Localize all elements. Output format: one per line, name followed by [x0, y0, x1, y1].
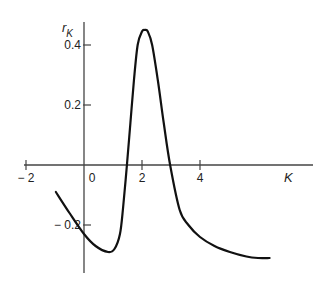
y-tick-label: 0.2: [64, 98, 81, 112]
x-tick-label: 0: [89, 171, 96, 185]
y-axis-label: rK: [62, 20, 74, 39]
data-curve: [56, 30, 270, 258]
y-ticks: 0.40.2− 0.2: [54, 38, 91, 232]
x-tick-label: 4: [197, 171, 204, 185]
x-tick-label: − 2: [17, 171, 34, 185]
x-ticks: − 2024: [17, 160, 203, 185]
x-tick-label: 2: [139, 171, 146, 185]
x-axis-label: K: [284, 170, 294, 185]
chart: − 2024 0.40.2− 0.2 rK K: [0, 0, 323, 285]
y-tick-label: 0.4: [64, 38, 81, 52]
